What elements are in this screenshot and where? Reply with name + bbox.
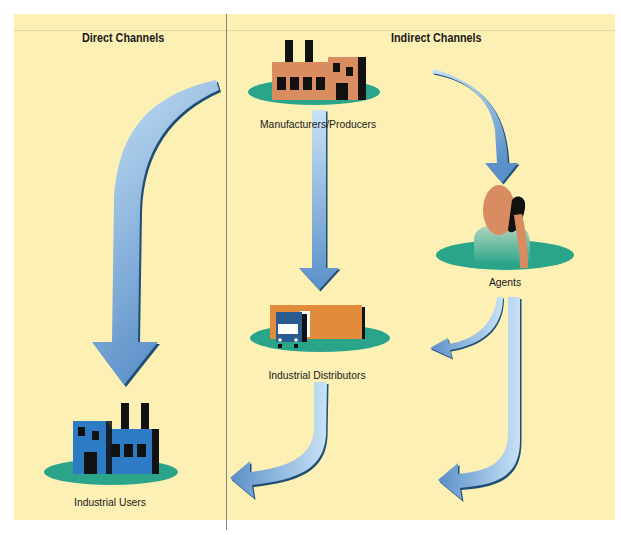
node-label-manufacturers: Manufacturers/Producers — [260, 118, 368, 130]
node-label-users: Industrial Users — [65, 496, 155, 508]
arrow-agents-to-users — [438, 297, 522, 502]
factory-icon — [44, 403, 178, 485]
node-label-distributors: Industrial Distributors — [263, 369, 371, 381]
factory-icon — [248, 40, 380, 105]
arrow-distributors-to-users — [230, 382, 329, 500]
person-phone-icon — [436, 185, 574, 270]
arrow-manufacturers-to-agents — [432, 69, 520, 185]
arrow-manufacturers-to-distributors — [299, 110, 341, 292]
warehouse-truck-icon — [250, 305, 390, 352]
node-label-agents: Agents — [478, 276, 532, 288]
arrow-manufacturers-to-users — [92, 80, 221, 387]
arrow-agents-to-distributors — [430, 297, 504, 360]
